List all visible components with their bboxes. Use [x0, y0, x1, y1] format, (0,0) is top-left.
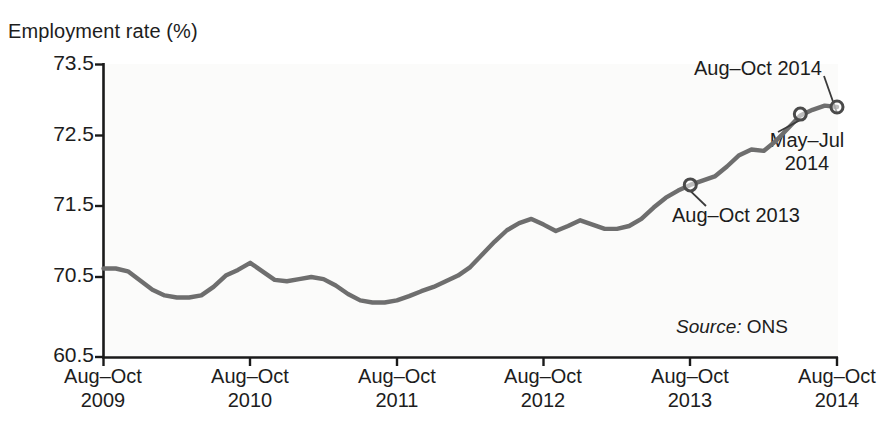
y-axis-ticks: [95, 65, 103, 358]
employment-rate-line: [104, 106, 838, 303]
annotation-leader-lines: [690, 76, 837, 206]
data-point-marker: [794, 108, 806, 120]
data-point-marker: [684, 179, 696, 191]
leader-line: [690, 191, 706, 206]
employment-rate-line-chart: Employment rate (%) 73.5 72.5 71.5 70.5 …: [0, 0, 887, 441]
data-point-marker: [831, 101, 843, 113]
plot-svg: [0, 0, 887, 441]
axes: [95, 63, 838, 366]
